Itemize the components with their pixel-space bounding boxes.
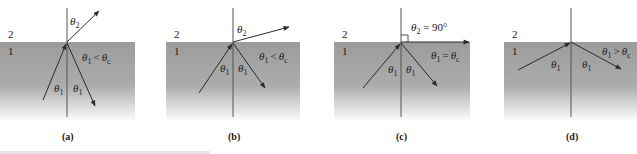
panel-b: 2 1 θ2 θ1 θ1 θ1<θc (b) bbox=[166, 8, 300, 143]
right-angle-marker bbox=[401, 35, 408, 42]
medium-2-label: 2 bbox=[8, 28, 14, 40]
theta2-90-label: θ2 = 90° bbox=[411, 21, 448, 36]
medium-2-label: 2 bbox=[342, 28, 348, 40]
panel-d: 2 1 θ1 θ1 θ1>θc (d) bbox=[504, 8, 637, 143]
medium-1-label: 1 bbox=[8, 45, 14, 57]
medium-1-label: 1 bbox=[342, 45, 348, 57]
panel-a: 2 1 θ2 θ1 θ1 θ1<θc (a) bbox=[0, 8, 135, 143]
theta2-label: θ2 bbox=[237, 23, 246, 38]
panel-caption: (a) bbox=[62, 131, 74, 143]
panel-caption: (b) bbox=[228, 131, 240, 143]
medium-1-label: 1 bbox=[512, 45, 518, 57]
cropped-caption-line bbox=[0, 151, 210, 154]
theta2-label: θ2 bbox=[70, 15, 79, 30]
medium-1-region bbox=[334, 42, 470, 122]
panel-caption: (d) bbox=[566, 131, 578, 143]
panel-caption: (c) bbox=[396, 131, 407, 143]
medium-1-label: 1 bbox=[174, 45, 180, 57]
medium-2-label: 2 bbox=[512, 28, 518, 40]
panel-c: 2 1 θ2 = 90° θ1 θ1 θ1=θc (c) bbox=[334, 8, 470, 143]
total-internal-reflection-figure: 2 1 θ2 θ1 θ1 θ1<θc (a) 2 1 θ2 θ1 θ1 θ1<θ… bbox=[0, 0, 637, 154]
medium-2-label: 2 bbox=[174, 28, 180, 40]
